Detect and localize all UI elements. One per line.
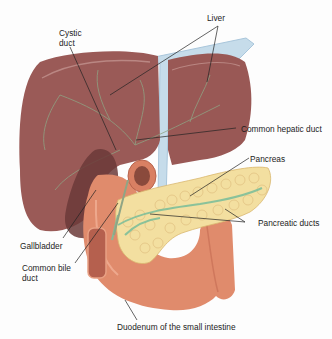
duodenum-lumen [88,228,106,278]
diagram-canvas: Cystic duct Liver Common hepatic duct Pa… [0,0,332,339]
label-duodenum: Duodenum of the small intestine [117,322,236,332]
label-pancreatic-ducts: Pancreatic ducts [258,218,319,228]
label-common-bile-duct: Common bile duct [22,263,71,283]
label-common-hepatic-duct: Common hepatic duct [241,124,322,134]
label-liver: Liver [207,13,225,23]
label-gallbladder: Gallbladder [20,241,62,251]
liver-left-lobe [168,54,251,166]
anatomy-illustration [0,0,332,339]
label-cystic-duct: Cystic duct [59,28,82,48]
label-pancreas: Pancreas [250,154,285,164]
